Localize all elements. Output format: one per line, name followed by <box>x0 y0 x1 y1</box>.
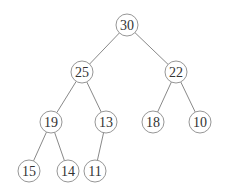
node-value: 22 <box>169 65 183 80</box>
tree-node: 10 <box>189 111 211 133</box>
tree-node: 11 <box>84 160 106 182</box>
node-value: 15 <box>22 164 36 179</box>
tree-edge <box>135 33 168 65</box>
node-value: 13 <box>99 115 113 130</box>
tree-edges <box>34 33 196 161</box>
tree-node: 13 <box>95 111 117 133</box>
tree-edge <box>57 81 76 112</box>
heap-tree-diagram: 30252219131810151411 <box>0 0 225 196</box>
node-value: 18 <box>146 115 160 130</box>
tree-nodes: 30252219131810151411 <box>18 14 211 182</box>
node-value: 25 <box>75 65 89 80</box>
node-value: 14 <box>61 164 75 179</box>
node-value: 11 <box>88 164 101 179</box>
tree-node: 19 <box>40 111 62 133</box>
tree-edge <box>158 82 172 112</box>
tree-edge <box>181 82 195 112</box>
node-value: 19 <box>44 115 58 130</box>
tree-node: 18 <box>142 111 164 133</box>
tree-edge <box>87 82 101 112</box>
tree-edge <box>90 33 120 64</box>
tree-node: 22 <box>165 61 187 83</box>
tree-edge <box>97 133 103 161</box>
node-value: 30 <box>120 18 134 33</box>
tree-node: 14 <box>57 160 79 182</box>
tree-node: 15 <box>18 160 40 182</box>
tree-node: 25 <box>71 61 93 83</box>
tree-edge <box>55 132 65 160</box>
tree-node: 30 <box>116 14 138 36</box>
node-value: 10 <box>193 115 207 130</box>
tree-edge <box>34 132 47 161</box>
